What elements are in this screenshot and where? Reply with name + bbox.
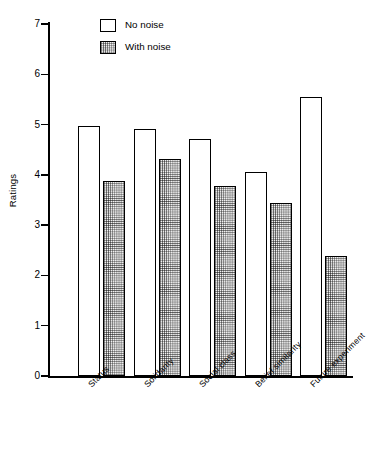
bar	[245, 172, 267, 376]
bar	[134, 129, 156, 376]
legend-swatch-with-noise	[100, 41, 116, 54]
bar	[103, 181, 125, 376]
bar	[300, 97, 322, 376]
bar-chart: Ratings 01234567 StatusSolidaritySocial …	[0, 0, 370, 469]
plot-area	[0, 0, 370, 469]
bar	[159, 159, 181, 376]
legend-item-with-noise: With noise	[100, 36, 171, 58]
bar	[214, 186, 236, 376]
legend-item-no-noise: No noise	[100, 14, 171, 36]
legend: No noise With noise	[100, 14, 171, 58]
legend-swatch-no-noise	[100, 19, 116, 32]
bar	[189, 139, 211, 376]
bar	[78, 126, 100, 376]
legend-label-no-noise: No noise	[125, 20, 164, 30]
legend-label-with-noise: With noise	[125, 42, 171, 52]
